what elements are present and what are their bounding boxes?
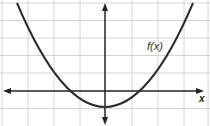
x-axis-label: x bbox=[199, 93, 205, 104]
y-axis-down-arrow-icon bbox=[102, 117, 108, 125]
parabola-graph bbox=[0, 0, 210, 126]
x-axis-left-arrow-icon bbox=[3, 88, 11, 94]
function-label: f(x) bbox=[147, 40, 163, 52]
y-axis-up-arrow-icon bbox=[102, 3, 108, 11]
x-axis bbox=[3, 88, 204, 94]
